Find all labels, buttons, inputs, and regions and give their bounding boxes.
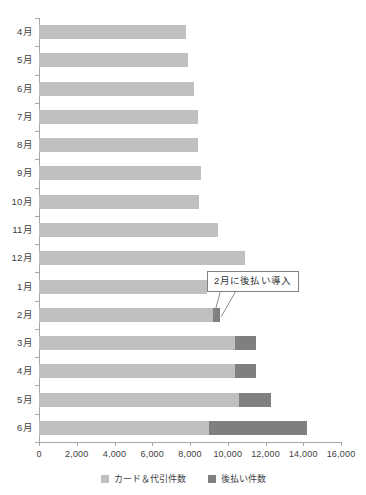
bar-segment-card [39, 82, 194, 96]
bar-segment-card [39, 421, 209, 435]
y-axis-label-4: 7月 [0, 112, 33, 122]
x-axis-label-2: 4,000 [103, 449, 127, 459]
bar-segment-card [39, 110, 198, 124]
y-axis-label-6: 9月 [0, 168, 33, 178]
x-axis-tick [228, 442, 229, 446]
x-axis-label-1: 2,000 [65, 449, 89, 459]
bar-row [39, 336, 341, 350]
y-axis-tick [35, 244, 39, 245]
y-axis-label-7: 10月 [0, 197, 33, 207]
y-axis-label-12: 3月 [0, 338, 33, 348]
x-axis-label-4: 8,000 [178, 449, 202, 459]
y-axis-label-1: 4月 [0, 27, 33, 37]
x-axis-tick [39, 442, 40, 446]
y-axis-label-3: 6月 [0, 84, 33, 94]
y-axis-tick [35, 46, 39, 47]
bar-row [39, 364, 341, 378]
bar-segment-deferred [235, 336, 256, 350]
x-axis-label-8: 16,000 [327, 449, 356, 459]
y-axis-tick [35, 18, 39, 19]
x-axis-label-6: 12,000 [251, 449, 280, 459]
y-axis-tick [35, 272, 39, 273]
x-axis-tick [77, 442, 78, 446]
y-axis-tick [35, 385, 39, 386]
chart-legend: カード＆代引件数 後払い件数 [0, 472, 366, 485]
bar-row [39, 25, 341, 39]
legend-label-deferred: 後払い件数 [221, 472, 266, 485]
annotation-callout: 2月に後払い導入 [207, 271, 299, 292]
x-axis-tick [341, 442, 342, 446]
y-axis-label-11: 2月 [0, 310, 33, 320]
x-axis-label-7: 14,000 [289, 449, 318, 459]
y-axis-tick [35, 216, 39, 217]
x-axis-tick [266, 442, 267, 446]
bar-segment-card [39, 280, 207, 294]
y-axis-tick [35, 75, 39, 76]
x-axis-tick [152, 442, 153, 446]
bar-row [39, 53, 341, 67]
plot-area [39, 18, 341, 442]
bar-segment-card [39, 195, 199, 209]
y-axis-label-9: 12月 [0, 253, 33, 263]
bar-segment-card [39, 364, 235, 378]
legend-label-card: カード＆代引件数 [114, 472, 186, 485]
bar-segment-card [39, 138, 198, 152]
bar-row [39, 421, 341, 435]
bar-segment-deferred [239, 393, 271, 407]
bar-row [39, 82, 341, 96]
x-axis-tick [303, 442, 304, 446]
x-axis-label-3: 6,000 [140, 449, 164, 459]
y-axis-label-10: 1月 [0, 282, 33, 292]
x-axis-tick [115, 442, 116, 446]
stacked-bar-chart: 4月5月6月7月8月9月10月11月12月1月2月3月4月5月6月 02,000… [0, 0, 366, 495]
bar-segment-card [39, 336, 235, 350]
y-axis-tick [35, 131, 39, 132]
bar-row [39, 251, 341, 265]
y-axis-label-8: 11月 [0, 225, 33, 235]
y-axis-tick [35, 103, 39, 104]
x-axis-label-0: 0 [36, 449, 41, 459]
bar-row [39, 138, 341, 152]
y-axis-label-5: 8月 [0, 140, 33, 150]
y-axis-tick [35, 301, 39, 302]
bar-segment-card [39, 166, 201, 180]
y-axis-tick [35, 188, 39, 189]
y-axis-tick [35, 329, 39, 330]
bar-segment-card [39, 308, 213, 322]
legend-item-deferred: 後払い件数 [208, 472, 266, 485]
y-axis-tick [35, 414, 39, 415]
bar-segment-card [39, 251, 245, 265]
bar-segment-card [39, 223, 218, 237]
legend-swatch-deferred [208, 475, 216, 483]
bar-segment-card [39, 393, 239, 407]
bar-segment-deferred [235, 364, 256, 378]
legend-swatch-card [101, 475, 109, 483]
y-axis-label-15: 6月 [0, 423, 33, 433]
legend-item-card: カード＆代引件数 [101, 472, 186, 485]
bar-segment-deferred [209, 421, 307, 435]
y-axis-tick [35, 357, 39, 358]
bar-segment-card [39, 25, 186, 39]
x-axis-tick [190, 442, 191, 446]
bar-row [39, 308, 341, 322]
bar-segment-card [39, 53, 188, 67]
bar-row [39, 223, 341, 237]
x-axis-label-5: 10,000 [213, 449, 242, 459]
bar-segment-deferred [213, 308, 221, 322]
y-axis-label-2: 5月 [0, 55, 33, 65]
chart-top-clipped-text [0, 0, 366, 8]
bar-row [39, 393, 341, 407]
y-axis-label-13: 4月 [0, 366, 33, 376]
bar-row [39, 195, 341, 209]
bar-row [39, 166, 341, 180]
y-axis-label-14: 5月 [0, 395, 33, 405]
y-axis-tick [35, 159, 39, 160]
bar-row [39, 110, 341, 124]
